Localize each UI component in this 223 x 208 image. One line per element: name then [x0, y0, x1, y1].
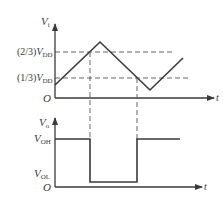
square-wave: [55, 139, 180, 182]
vi-t-label: t: [216, 92, 219, 103]
vi-axis-label: Vi: [41, 15, 50, 29]
lower-threshold-label: (1/3)VDD: [17, 72, 53, 85]
waveform-diagram: Vi (2/3)VDD (1/3)VDD O t Vo VOH VOL O t: [0, 0, 223, 208]
triangle-wave: [55, 42, 183, 90]
vol-label: VOL: [34, 167, 50, 181]
output-plot: Vo VOH VOL O t: [34, 116, 207, 193]
vi-origin-label: O: [43, 92, 51, 104]
vo-t-label: t: [204, 181, 207, 192]
vo-origin-label: O: [43, 181, 51, 193]
upper-threshold-label: (2/3)VDD: [17, 46, 53, 59]
voh-label: VOH: [34, 132, 51, 146]
vo-axis-label: Vo: [39, 116, 50, 130]
input-plot: Vi (2/3)VDD (1/3)VDD O t: [17, 15, 219, 104]
